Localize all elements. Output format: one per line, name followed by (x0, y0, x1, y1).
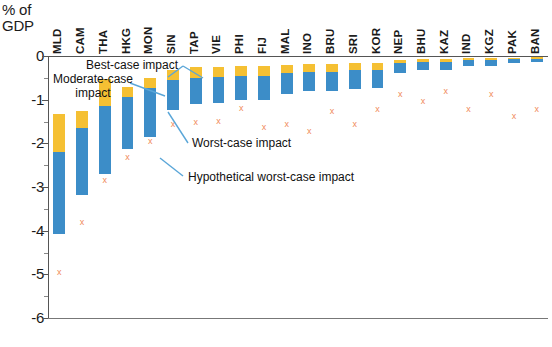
x-axis-category-label: SRI (346, 4, 360, 54)
bar-segment-best-case (235, 66, 247, 76)
bar-segment-worst-case (144, 88, 156, 137)
bar-segment-worst-case (53, 152, 65, 234)
bar-segment-worst-case (303, 72, 315, 92)
hypothetical-worst-case-marker: x (80, 217, 85, 226)
bar-segment-best-case (303, 64, 315, 72)
bar-segment-worst-case (349, 70, 361, 89)
y-axis-tick-label: -5 (6, 266, 44, 281)
hypothetical-worst-case-marker: x (103, 175, 108, 184)
hypothetical-worst-case-marker: x (512, 112, 517, 121)
hypothetical-worst-case-marker: x (353, 119, 358, 128)
hypothetical-worst-case-marker: x (443, 86, 448, 95)
bar-segment-worst-case (190, 78, 202, 104)
x-axis-category-label: NEP (391, 4, 405, 54)
x-axis-category-label: BHU (414, 4, 428, 54)
bar-segment-best-case (372, 63, 384, 70)
hypothetical-worst-case-marker: x (239, 104, 244, 113)
bar-segment-best-case (281, 65, 293, 73)
y-axis-line (48, 56, 49, 318)
hypothetical-worst-case-marker: x (171, 119, 176, 128)
x-axis-category-label: PAK (505, 4, 519, 54)
x-axis-category-label: MON (141, 4, 155, 54)
bar-segment-best-case (144, 78, 156, 88)
bar-segment-worst-case (167, 80, 179, 110)
x-axis-line (48, 318, 548, 319)
hypothetical-worst-case-marker: x (330, 107, 335, 116)
x-axis-category-label: HKG (119, 4, 133, 54)
bar-segment-worst-case (417, 62, 429, 69)
annotation-moderate-case: Moderate-case impact (50, 72, 136, 100)
bar-segment-best-case (213, 67, 225, 77)
x-axis-category-label: MLD (50, 4, 64, 54)
annotation-worst-case: Worst-case impact (192, 136, 291, 150)
x-axis-category-label: KAZ (437, 4, 451, 54)
x-axis-category-label: THA (96, 4, 110, 54)
bar-segment-worst-case (99, 106, 111, 175)
y-axis-tick-label: 0 (6, 48, 44, 63)
x-axis-category-label: VIE (209, 4, 223, 54)
bar-segment-worst-case (76, 128, 88, 196)
bar-segment-worst-case (485, 60, 497, 65)
x-axis-category-label: BAN (528, 4, 542, 54)
hypothetical-worst-case-marker: x (284, 119, 289, 128)
hypothetical-worst-case-marker: x (148, 137, 153, 146)
hypothetical-worst-case-marker: x (57, 268, 62, 277)
x-axis-category-label: SIN (164, 4, 178, 54)
zero-baseline (48, 56, 548, 57)
x-axis-category-label: TAP (187, 4, 201, 54)
y-axis-tick-label: -4 (6, 223, 44, 238)
chart-figure: % of GDP 0-1-2-3-4-5-6 xxxxxxxxxxxxxxxxx… (0, 0, 552, 347)
x-axis-category-label: MAL (278, 4, 292, 54)
y-axis-tick-label: -3 (6, 179, 44, 194)
bar-segment-worst-case (281, 73, 293, 94)
hypothetical-worst-case-marker: x (489, 89, 494, 98)
hypothetical-worst-case-marker: x (421, 96, 426, 105)
bar-segment-worst-case (372, 70, 384, 88)
bar-segment-worst-case (531, 59, 543, 62)
y-axis-tick-label: -1 (6, 92, 44, 107)
x-axis-category-label: INO (300, 4, 314, 54)
x-axis-category-label: CAM (73, 4, 87, 54)
bar-segment-best-case (76, 111, 88, 128)
bar-segment-worst-case (440, 62, 452, 69)
x-axis-category-label: PHI (232, 4, 246, 54)
bar-segment-best-case (190, 67, 202, 77)
hypothetical-worst-case-marker: x (193, 118, 198, 127)
bar-segment-best-case (258, 66, 270, 76)
y-axis-tick-labels: 0-1-2-3-4-5-6 (0, 0, 44, 347)
x-axis-category-label: KGZ (482, 4, 496, 54)
hypothetical-worst-case-marker: x (262, 122, 267, 131)
hypothetical-worst-case-marker: x (466, 105, 471, 114)
annotation-best-case: Best-case impact (86, 58, 178, 72)
hypothetical-worst-case-marker: x (398, 90, 403, 99)
bar-segment-worst-case (122, 97, 134, 148)
y-axis-tick-label: -2 (6, 135, 44, 150)
hypothetical-worst-case-marker: x (216, 116, 221, 125)
bar-segment-worst-case (213, 77, 225, 103)
x-axis-category-label: FIJ (255, 4, 269, 54)
bar-segment-best-case (349, 63, 361, 70)
bar-segment-worst-case (235, 76, 247, 100)
annotation-hypothetical-worst-case: Hypothetical worst-case impact (188, 170, 354, 184)
bar-segment-worst-case (258, 76, 270, 100)
x-axis-category-label: IND (459, 4, 473, 54)
hypothetical-worst-case-marker: x (375, 105, 380, 114)
bar-segment-worst-case (463, 60, 475, 66)
bar-segment-worst-case (326, 72, 338, 92)
x-axis-category-label: BRU (323, 4, 337, 54)
hypothetical-worst-case-marker: x (534, 105, 539, 114)
y-axis-tick-label: -6 (6, 310, 44, 325)
x-axis-category-label: KOR (369, 4, 383, 54)
bar-segment-worst-case (508, 59, 520, 63)
bar-segment-best-case (53, 114, 65, 152)
bar-segment-best-case (326, 64, 338, 72)
hypothetical-worst-case-marker: x (125, 152, 130, 161)
bar-segment-worst-case (394, 63, 406, 73)
hypothetical-worst-case-marker: x (307, 127, 312, 136)
